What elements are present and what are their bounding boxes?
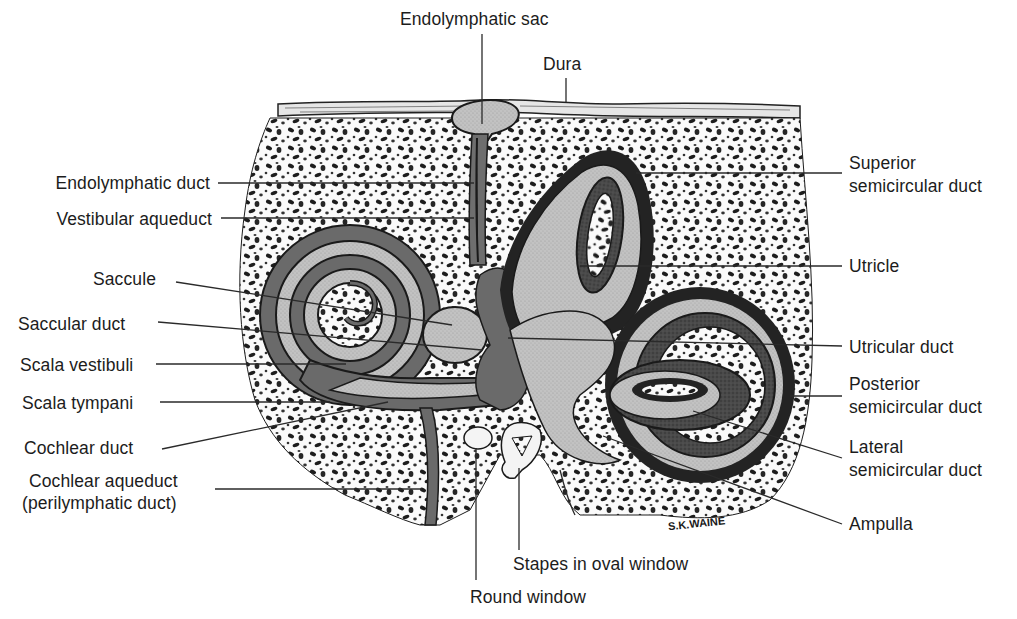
label-posterior-line1: Posterior: [849, 373, 920, 395]
label-endolymphatic-sac: Endolymphatic sac: [400, 8, 549, 30]
label-round-window: Round window: [470, 586, 586, 608]
label-vestibular-aqueduct: Vestibular aqueduct: [20, 208, 212, 230]
label-utricular-duct: Utricular duct: [849, 336, 954, 358]
label-superior-line2: semicircular duct: [849, 175, 982, 197]
label-perilymphatic-duct: (perilymphatic duct): [22, 492, 177, 514]
label-posterior-line2: semicircular duct: [849, 396, 982, 418]
label-scala-tympani: Scala tympani: [22, 392, 133, 414]
label-saccule: Saccule: [93, 268, 156, 290]
label-dura: Dura: [543, 53, 581, 75]
label-utricle: Utricle: [849, 255, 899, 277]
inner-ear-diagram: S.K.WAINE Endolymphatic sac Dura Endolym…: [0, 0, 1017, 619]
label-ampulla: Ampulla: [849, 513, 913, 535]
label-scala-vestibuli: Scala vestibuli: [20, 354, 133, 376]
label-lateral-line1: Lateral: [849, 436, 903, 458]
label-stapes-oval-window: Stapes in oval window: [513, 553, 688, 575]
label-saccular-duct: Saccular duct: [18, 313, 125, 335]
label-superior-line1: Superior: [849, 152, 916, 174]
label-endolymphatic-duct: Endolymphatic duct: [30, 172, 210, 194]
label-cochlear-aqueduct: Cochlear aqueduct: [29, 470, 178, 492]
label-cochlear-duct: Cochlear duct: [24, 437, 133, 459]
label-lateral-line2: semicircular duct: [849, 459, 982, 481]
